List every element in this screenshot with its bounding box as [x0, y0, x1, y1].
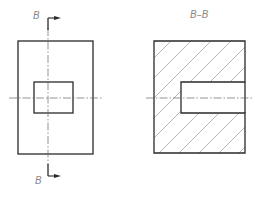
section-mark-top: B	[33, 10, 40, 21]
section-mark-bottom: B	[35, 175, 42, 186]
front-view: B B	[9, 10, 103, 186]
section-arrow-bottom	[48, 164, 61, 178]
hatch-pattern	[154, 41, 255, 156]
section-arrow-top	[48, 16, 61, 30]
arrowhead-icon	[54, 174, 61, 178]
arrowhead-icon	[54, 16, 61, 20]
inner-pocket-outline	[34, 82, 73, 113]
section-outline	[154, 41, 245, 153]
section-view: B–B	[146, 9, 255, 156]
outer-outline	[18, 41, 93, 154]
technical-drawing: B B B–B	[0, 0, 255, 197]
section-view-title: B–B	[190, 9, 209, 20]
